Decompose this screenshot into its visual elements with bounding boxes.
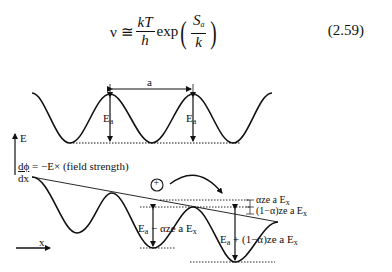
e-symbol: E	[138, 222, 145, 234]
field-equation: dϕ = −E× (field strength)	[18, 160, 129, 172]
subscript: a	[193, 117, 197, 126]
one-minus-alpha-shift-label: (1−α)ze a Ex	[256, 205, 307, 218]
field-eq-denominator: dx	[18, 172, 29, 184]
spacing-label: a	[147, 76, 152, 88]
label-text: αze a E	[256, 194, 286, 205]
subscript: x	[303, 209, 307, 218]
barrier-label-1: Ea	[103, 112, 113, 126]
hop-arrow	[170, 175, 222, 193]
forward-barrier-label: Ea − αze a Ex	[138, 222, 197, 236]
label-text: + (1−α)ze a E	[230, 233, 293, 245]
x-axis-label: x	[39, 236, 45, 248]
label-text: − αze a E	[148, 222, 192, 234]
tilted-potential-curve	[32, 177, 278, 262]
field-eq-rest: = −E× (field strength)	[29, 160, 128, 172]
periodic-potential-curve	[32, 93, 272, 143]
e-symbol: E	[220, 233, 227, 245]
barrier-label-2: Ea	[186, 112, 196, 126]
field-eq-numerator: dϕ	[18, 160, 29, 172]
energy-axis-label: E	[20, 132, 27, 144]
ion-plus-sign: +	[154, 177, 160, 188]
label-text: (1−α)ze a E	[256, 205, 303, 216]
subscript: x	[294, 238, 298, 247]
subscript: x	[193, 227, 197, 236]
e-symbol: E	[186, 112, 193, 124]
reverse-barrier-label: Ea + (1−α)ze a Ex	[220, 233, 298, 247]
e-symbol: E	[103, 112, 110, 124]
subscript: a	[110, 117, 114, 126]
